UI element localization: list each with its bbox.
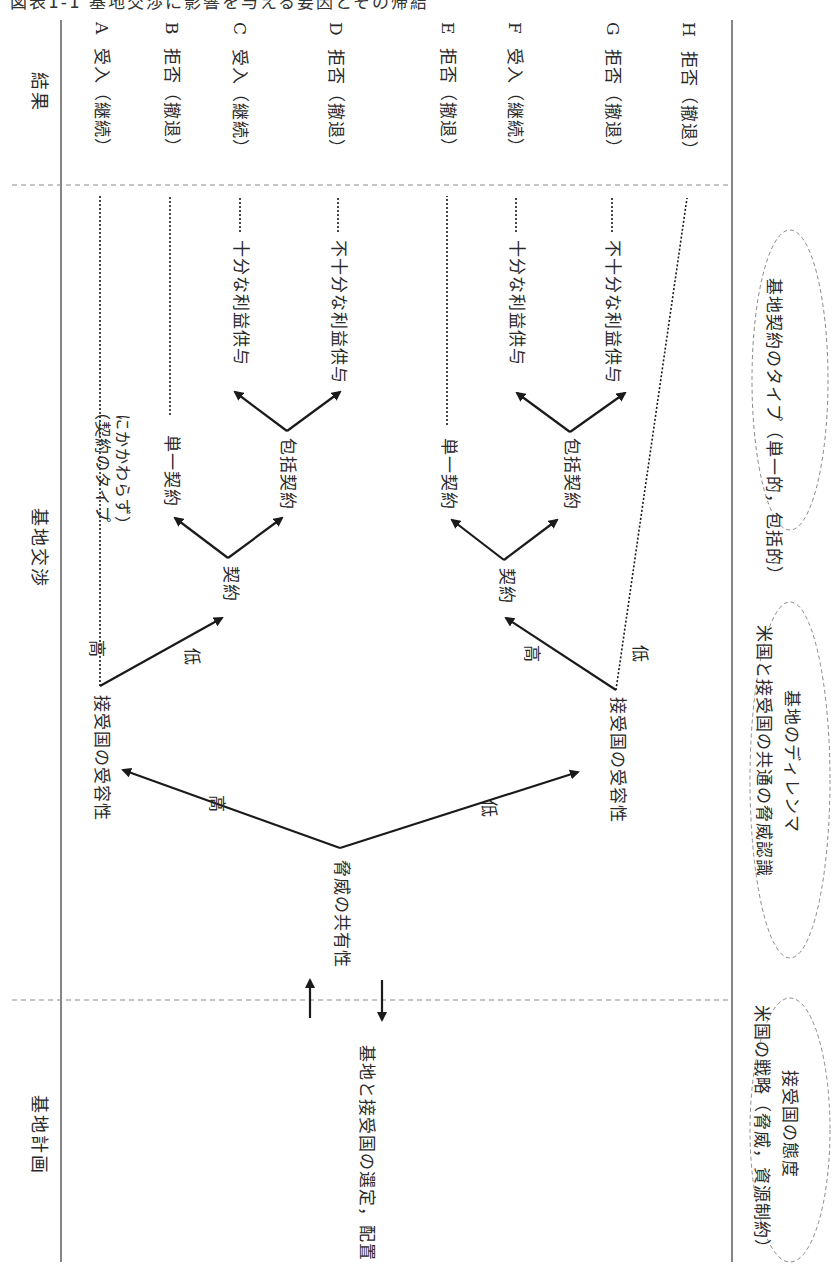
header-negotiation: 基地交渉	[30, 508, 48, 588]
factor-threat-line1: 米国と接受国の共通の脅威認識	[755, 625, 772, 877]
factor-contract-type: 基地契約のタイプ（単一的，包括的）	[765, 278, 782, 584]
factor-threat-line2: 基地のディレンマ	[783, 690, 800, 833]
node-single-upper: 単一契約	[163, 435, 180, 507]
result-A: A 受入（継続）	[93, 22, 110, 156]
node-acceptability-lower: 接受国の受容性	[609, 697, 626, 823]
edge-upper-low: 低	[183, 648, 200, 666]
node-contract-lower: 契約	[498, 568, 515, 604]
node-acceptability-upper: 接受国の受容性	[93, 695, 110, 821]
node-contract-upper: 契約	[222, 566, 239, 602]
node-threat-sharing: 脅威の共有性	[333, 860, 350, 968]
edge-threat-low: 低	[480, 800, 497, 818]
result-H: H 拒否（撤退）	[680, 22, 697, 159]
result-B: B 拒否（撤退）	[163, 22, 180, 156]
node-sufficient-upper: 十分な利益供与	[232, 240, 249, 366]
node-single-lower: 単一契約	[440, 438, 457, 510]
header-results: 結果	[30, 72, 48, 112]
result-D: D 拒否（撤退）	[327, 22, 344, 157]
factor-strategy-line1: 米国の戦略（脅威，資源制約）	[753, 1005, 770, 1257]
header-planning: 基地計画	[30, 1095, 48, 1175]
node-planning: 基地と接受国の選定，配置	[358, 1045, 375, 1261]
result-G: G 拒否（撤退）	[604, 22, 621, 157]
note-regardless-line1: （契約のタイプ	[94, 404, 110, 523]
factor-strategy-line2: 接受国の態度	[781, 1070, 798, 1178]
edge-upper-high: 高	[88, 640, 105, 658]
diagram-lines	[0, 0, 836, 1267]
result-C: C 受入（継続）	[231, 22, 248, 157]
node-sufficient-lower: 十分な利益供与	[508, 240, 525, 366]
node-insufficient-lower: 不十分な利益供与	[604, 240, 621, 384]
result-E: E 拒否（撤退）	[439, 22, 456, 156]
edge-lower-low: 低	[631, 645, 648, 663]
node-comprehensive-upper: 包括契約	[279, 438, 296, 510]
base-negotiation-diagram: 図表1-1 基地交渉に影響を与える要因とその帰結	[0, 0, 836, 1267]
note-regardless-line2: にかかわらず）	[114, 414, 130, 533]
node-insufficient-upper: 不十分な利益供与	[330, 240, 347, 384]
result-F: F 受入（継続）	[506, 22, 523, 156]
edge-threat-high: 高	[208, 795, 225, 813]
node-comprehensive-lower: 包括契約	[563, 438, 580, 510]
edge-lower-high: 高	[523, 645, 540, 663]
